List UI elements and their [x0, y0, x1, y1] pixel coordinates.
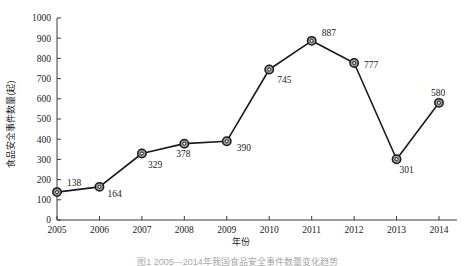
- data-point-label: 329: [148, 160, 163, 170]
- y-tick-label: 1000: [32, 13, 51, 23]
- y-tick-label: 300: [37, 155, 52, 165]
- data-point-marker-center: [56, 191, 59, 194]
- x-tick-label: 2009: [217, 225, 236, 235]
- x-tick-label: 2011: [302, 225, 321, 235]
- x-tick-label: 2014: [430, 225, 449, 235]
- data-point-label: 390: [237, 143, 252, 153]
- y-tick-label: 100: [37, 195, 52, 205]
- line-chart-svg: 01002003004005006007008009001000 2005200…: [0, 0, 475, 248]
- x-tick-label: 2012: [345, 225, 364, 235]
- data-point-marker-center: [395, 158, 398, 161]
- data-point-marker-center: [310, 39, 313, 42]
- data-point-marker-center: [268, 68, 271, 71]
- data-point-marker-center: [353, 62, 356, 65]
- data-point-label: 580: [431, 88, 446, 98]
- y-axis-title: 食品安全事件数量(起): [5, 81, 16, 168]
- data-point-label: 138: [67, 178, 82, 188]
- x-tick-label: 2013: [387, 225, 406, 235]
- x-axis-title: 年份: [232, 236, 250, 247]
- data-point-label: 745: [277, 75, 292, 85]
- x-tick-label: 2007: [132, 225, 151, 235]
- data-point-marker-center: [183, 142, 186, 145]
- data-point-label: 777: [364, 60, 379, 70]
- x-tick-label: 2010: [260, 225, 279, 235]
- x-tick-label: 2005: [48, 225, 67, 235]
- data-point-marker-center: [140, 152, 143, 155]
- data-point-marker-center: [438, 101, 441, 104]
- data-point-marker-center: [225, 140, 228, 143]
- y-tick-label: 500: [37, 114, 52, 124]
- x-tick-label: 2006: [90, 225, 109, 235]
- y-tick-label: 800: [37, 54, 52, 64]
- y-tick-label: 200: [37, 175, 52, 185]
- y-tick-label: 700: [37, 74, 52, 84]
- data-point-label: 164: [107, 189, 122, 199]
- chart-area: 01002003004005006007008009001000 2005200…: [0, 0, 475, 248]
- data-point-marker-center: [98, 185, 101, 188]
- x-tick-label: 2008: [175, 225, 194, 235]
- y-tick-label: 900: [37, 34, 52, 44]
- y-tick-label: 400: [37, 135, 52, 145]
- figure-container: 01002003004005006007008009001000 2005200…: [0, 0, 475, 266]
- y-tick-label: 0: [46, 215, 51, 225]
- figure-caption-strip: 图1 2005—2014年我国食品安全事件数量变化趋势: [0, 256, 475, 266]
- data-point-label: 301: [400, 165, 415, 175]
- figure-caption: 图1 2005—2014年我国食品安全事件数量变化趋势: [0, 256, 475, 266]
- y-tick-label: 600: [37, 94, 52, 104]
- data-point-label: 887: [322, 28, 337, 38]
- data-point-label: 378: [176, 149, 191, 159]
